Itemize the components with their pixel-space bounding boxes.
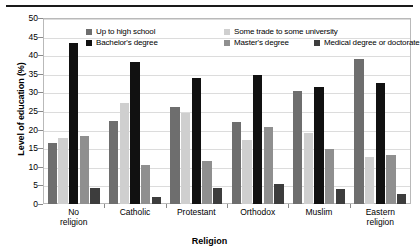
- y-tick-label: 10: [4, 163, 38, 172]
- bar: [120, 103, 130, 204]
- legend-swatch-some-trade-to-some-university: [224, 29, 230, 35]
- x-axis-title: Religion: [0, 236, 419, 246]
- y-tick-label: 35: [4, 70, 38, 79]
- legend-row-2: Bachelor's degree Master's degree Medica…: [86, 37, 406, 48]
- x-axis-separator: [227, 204, 228, 208]
- bar: [48, 143, 58, 204]
- x-tick-label: Eastern religion: [350, 207, 411, 227]
- bar: [354, 59, 364, 204]
- y-tick-mark: [38, 18, 43, 19]
- y-tick-mark: [38, 130, 43, 131]
- bar: [141, 165, 151, 204]
- gridline: [44, 56, 410, 57]
- bar: [232, 122, 242, 204]
- legend-item-some-trade-to-some-university[interactable]: Some trade to some university: [224, 26, 338, 37]
- bar: [192, 78, 202, 204]
- legend-item-medical-degree-or-doctorate[interactable]: Medical degree or doctorate: [314, 37, 420, 48]
- y-tick-label: 0: [4, 200, 38, 209]
- bar: [202, 161, 212, 204]
- y-tick-mark: [38, 55, 43, 56]
- x-axis-separator: [350, 204, 351, 208]
- bar: [253, 75, 263, 204]
- legend-label-bachelors-degree: Bachelor's degree: [96, 37, 158, 48]
- bar: [397, 194, 407, 204]
- y-tick-label: 15: [4, 144, 38, 153]
- y-tick-mark: [38, 74, 43, 75]
- y-tick-mark: [38, 204, 43, 205]
- bar: [130, 62, 140, 204]
- y-tick-mark: [38, 111, 43, 112]
- y-tick-mark: [38, 185, 43, 186]
- y-tick-label: 50: [4, 14, 38, 23]
- y-tick-mark: [38, 92, 43, 93]
- header-rule: [6, 5, 413, 7]
- legend-swatch-medical-degree-or-doctorate: [314, 40, 320, 46]
- bar: [109, 121, 119, 204]
- legend-item-up-to-high-school[interactable]: Up to high school: [86, 26, 155, 37]
- legend-row-1: Up to high school Some trade to some uni…: [86, 26, 406, 37]
- bar: [152, 197, 162, 204]
- bar: [376, 83, 386, 204]
- x-tick-label: Catholic: [104, 207, 165, 217]
- y-tick-mark: [38, 148, 43, 149]
- bar: [336, 189, 346, 204]
- bar: [170, 107, 180, 204]
- y-tick-mark: [38, 37, 43, 38]
- bar: [69, 43, 79, 204]
- bar: [90, 188, 100, 204]
- y-tick-label: 45: [4, 33, 38, 42]
- bar: [365, 157, 375, 204]
- bar: [264, 127, 274, 204]
- legend-item-masters-degree[interactable]: Master's degree: [224, 37, 289, 48]
- x-tick-label: No religion: [43, 207, 104, 227]
- bar: [325, 149, 335, 204]
- y-tick-label: 20: [4, 126, 38, 135]
- legend-label-medical-degree-or-doctorate: Medical degree or doctorate: [324, 37, 420, 48]
- legend-swatch-bachelors-degree: [86, 40, 92, 46]
- y-tick-label: 25: [4, 107, 38, 116]
- legend-swatch-up-to-high-school: [86, 29, 92, 35]
- chart-legend: Up to high school Some trade to some uni…: [86, 26, 406, 48]
- bar: [58, 138, 68, 204]
- bar: [181, 113, 191, 204]
- bar: [304, 133, 314, 204]
- bar: [242, 140, 252, 204]
- x-tick-label: Orthodox: [227, 207, 288, 217]
- bar: [274, 184, 284, 204]
- x-axis-separator: [104, 204, 105, 208]
- legend-label-masters-degree: Master's degree: [234, 37, 289, 48]
- legend-label-some-trade-to-some-university: Some trade to some university: [234, 26, 338, 37]
- bar: [386, 155, 396, 204]
- legend-label-up-to-high-school: Up to high school: [96, 26, 155, 37]
- y-tick-label: 5: [4, 181, 38, 190]
- x-tick-label: Muslim: [288, 207, 349, 217]
- y-tick-label: 30: [4, 88, 38, 97]
- bar: [293, 91, 303, 204]
- legend-swatch-masters-degree: [224, 40, 230, 46]
- bar: [314, 87, 324, 204]
- x-axis-separator: [288, 204, 289, 208]
- x-tick-label: Protestant: [166, 207, 227, 217]
- y-tick-label: 40: [4, 51, 38, 60]
- y-tick-mark: [38, 167, 43, 168]
- bar: [213, 188, 223, 204]
- legend-item-bachelors-degree[interactable]: Bachelor's degree: [86, 37, 158, 48]
- x-axis-separator: [166, 204, 167, 208]
- gridline: [44, 19, 410, 20]
- bar: [80, 136, 90, 204]
